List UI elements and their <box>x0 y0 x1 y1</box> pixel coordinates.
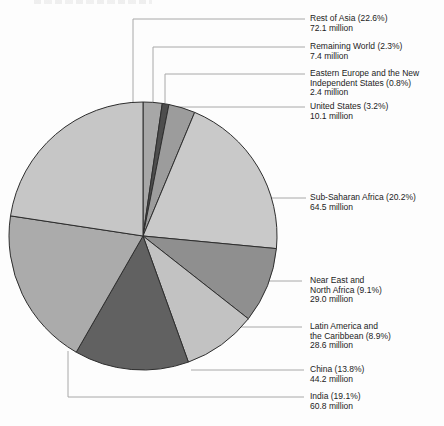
label-value: 72.1 million <box>310 24 440 34</box>
label-latin-america: Latin America and the Caribbean (8.9%) 2… <box>310 322 440 351</box>
label-eastern-europe: Eastern Europe and the New Independent S… <box>310 69 440 98</box>
label-india: India (19.1%) 60.8 million <box>310 392 440 411</box>
label-remaining-world: Remaining World (2.3%) 7.4 million <box>310 42 440 61</box>
label-value: 2.4 million <box>310 88 440 98</box>
leader-line-remaining-world <box>153 47 305 103</box>
label-value: 10.1 million <box>310 112 440 122</box>
label-near-east: Near East and North Africa (9.1%) 29.0 m… <box>310 276 440 305</box>
label-value: 60.8 million <box>310 402 440 412</box>
leader-line-rest-of-asia <box>133 19 305 103</box>
label-value: 28.6 million <box>310 341 440 351</box>
pie-chart-figure: Rest of Asia (22.6%) 72.1 million Remain… <box>0 0 444 426</box>
label-value: 64.5 million <box>310 203 440 213</box>
leader-line-eastern-europe <box>165 74 305 105</box>
pie-chart <box>0 0 444 426</box>
label-sub-saharan-africa: Sub-Saharan Africa (20.2%) 64.5 million <box>310 193 440 212</box>
label-rest-of-asia: Rest of Asia (22.6%) 72.1 million <box>310 14 440 33</box>
label-united-states: United States (3.2%) 10.1 million <box>310 102 440 121</box>
label-china: China (13.8%) 44.2 million <box>310 365 440 384</box>
label-value: 29.0 million <box>310 295 440 305</box>
pie-slice-rest-of-asia <box>11 102 143 236</box>
label-value: 44.2 million <box>310 375 440 385</box>
label-value: 7.4 million <box>310 52 440 62</box>
